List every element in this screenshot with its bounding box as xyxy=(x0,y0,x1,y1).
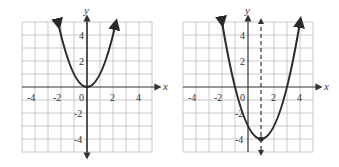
xtick: 4 xyxy=(136,92,141,103)
ytick: -2 xyxy=(74,108,82,119)
xtick: 0 xyxy=(79,92,84,103)
ytick: -4 xyxy=(235,134,243,145)
vertex-point xyxy=(259,137,264,142)
ytick: 4 xyxy=(240,30,245,41)
xtick: -4 xyxy=(27,92,35,103)
ytick: -2 xyxy=(235,108,243,119)
graphs-canvas: y x -4 -2 0 2 4 4 2 -2 -4 xyxy=(0,0,339,167)
xtick: 0 xyxy=(240,92,245,103)
xtick: 4 xyxy=(297,92,302,103)
y-axis-label-1: y xyxy=(83,4,89,16)
y-axis-label-2: y xyxy=(244,4,250,16)
xtick: -2 xyxy=(53,92,61,103)
graph-1: y x -4 -2 0 2 4 4 2 -2 -4 xyxy=(22,4,168,156)
ytick: 4 xyxy=(79,30,84,41)
xtick: -4 xyxy=(188,92,196,103)
ytick: 2 xyxy=(240,56,245,67)
xtick: -2 xyxy=(214,92,222,103)
ytick: -4 xyxy=(74,134,82,145)
xtick: 2 xyxy=(271,92,276,103)
x-axis-label-2: x xyxy=(323,80,329,92)
x-axis-label-1: x xyxy=(162,80,168,92)
xtick: 2 xyxy=(110,92,115,103)
ytick: 2 xyxy=(79,56,84,67)
graph-2: y x -4 -2 0 2 4 4 2 -2 -4 xyxy=(183,4,329,156)
